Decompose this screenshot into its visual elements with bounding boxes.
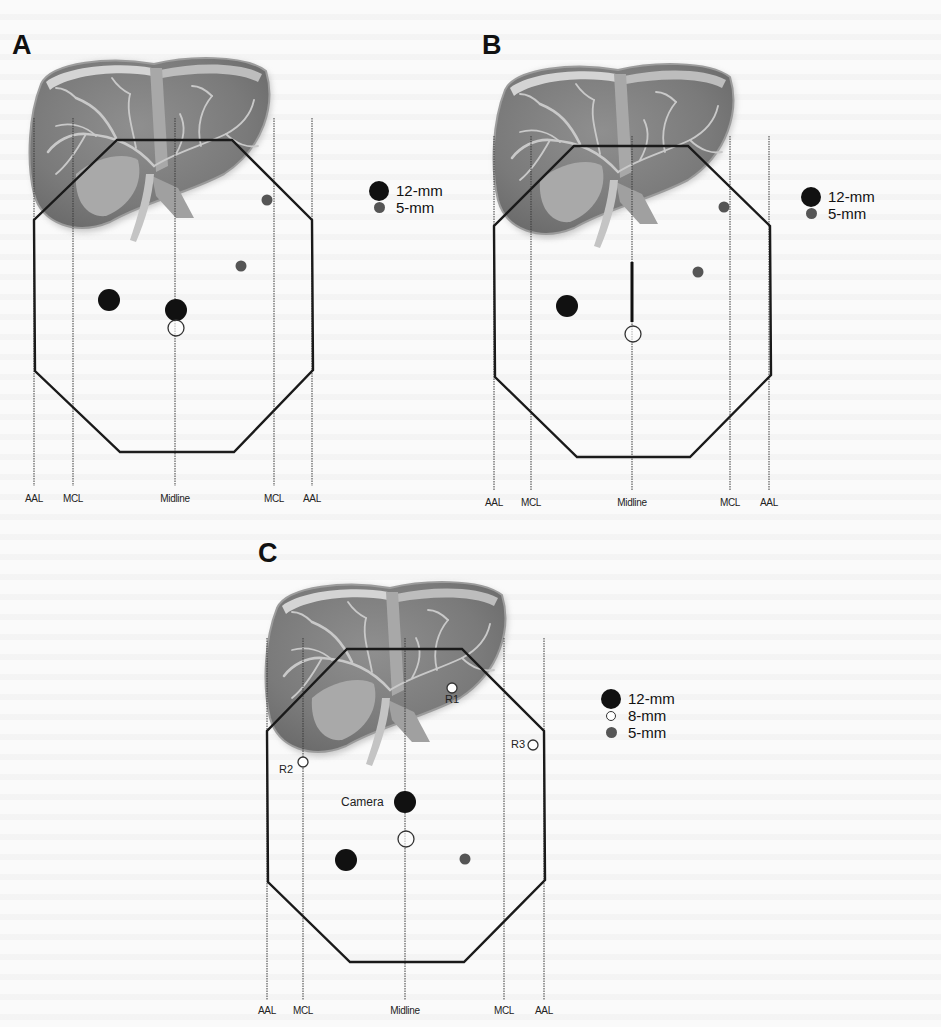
- filled-small-circle-icon: [806, 208, 817, 219]
- legend-item: 12-mm: [368, 182, 443, 199]
- panel-letter-c: C: [258, 538, 278, 569]
- filled-small-circle-icon: [374, 202, 385, 213]
- liver-illustration: [266, 582, 508, 766]
- filled-large-circle-icon: [801, 187, 821, 207]
- legend-label: 5-mm: [828, 205, 866, 222]
- axis-label-mcl: MCL: [264, 493, 284, 504]
- filled-large-circle-icon: [369, 181, 389, 201]
- legend-panel-b: 12-mm5-mm: [800, 188, 875, 222]
- port-5mm-marker: [460, 854, 471, 865]
- axis-label-mcl: MCL: [720, 497, 740, 508]
- legend-panel-c: 12-mm8-mm5-mm: [600, 690, 675, 741]
- legend-item: 5-mm: [600, 724, 675, 741]
- legend-label: 5-mm: [396, 199, 434, 216]
- marker-label-r1: R1: [445, 693, 459, 705]
- liver-illustration: [30, 58, 272, 242]
- port-8mm-marker: [298, 757, 308, 767]
- legend-swatch-icon: [368, 202, 390, 213]
- legend-item: 5-mm: [368, 199, 443, 216]
- legend-label: 12-mm: [396, 182, 443, 199]
- legend-item: 12-mm: [800, 188, 875, 205]
- port-12mm-marker: [335, 849, 357, 871]
- axis-label-mcl: MCL: [494, 1005, 514, 1016]
- port-8mm-marker: [528, 740, 538, 750]
- axis-label-aal: AAL: [535, 1005, 553, 1016]
- legend-swatch-icon: [800, 208, 822, 219]
- port-5mm-marker: [693, 267, 704, 278]
- legend-swatch-icon: [368, 181, 390, 201]
- axis-label-midline: Midline: [160, 493, 190, 504]
- legend-item: 8-mm: [600, 707, 675, 724]
- legend-label: 12-mm: [628, 690, 675, 707]
- panel-letter-b: B: [482, 30, 502, 61]
- panel-b: [494, 64, 771, 490]
- open-circle-icon: [606, 711, 616, 721]
- axis-label-aal: AAL: [25, 493, 43, 504]
- axis-label-aal: AAL: [760, 497, 778, 508]
- port-8mm-marker: [447, 683, 457, 693]
- umbilicus-marker: [625, 326, 641, 342]
- legend-swatch-icon: [600, 711, 622, 721]
- legend-item: 12-mm: [600, 690, 675, 707]
- port-12mm-marker: [556, 295, 578, 317]
- legend-item: 5-mm: [800, 205, 875, 222]
- port-12mm-marker: [394, 791, 416, 813]
- port-5mm-marker: [236, 261, 247, 272]
- axis-label-midline: Midline: [617, 497, 647, 508]
- port-5mm-marker: [719, 202, 730, 213]
- panel-a: [30, 58, 313, 486]
- port-placement-figure: AAALMCLMidlineMCLAAL12-mm5-mmBAALMCLMidl…: [0, 0, 941, 1027]
- panel-c: [266, 582, 545, 1000]
- axis-label-midline: Midline: [390, 1005, 420, 1016]
- umbilicus-marker: [168, 320, 184, 336]
- axis-label-mcl: MCL: [293, 1005, 313, 1016]
- legend-label: 12-mm: [828, 188, 875, 205]
- port-12mm-marker: [165, 299, 187, 321]
- port-5mm-marker: [262, 195, 273, 206]
- legend-label: 8-mm: [628, 707, 666, 724]
- axis-label-aal: AAL: [258, 1005, 276, 1016]
- axis-label-aal: AAL: [303, 493, 321, 504]
- legend-panel-a: 12-mm5-mm: [368, 182, 443, 216]
- filled-large-circle-icon: [601, 689, 621, 709]
- filled-small-circle-icon: [606, 727, 617, 738]
- marker-label-camera: Camera: [341, 795, 384, 809]
- axis-label-mcl: MCL: [63, 493, 83, 504]
- umbilicus-marker: [398, 831, 414, 847]
- panel-letter-a: A: [12, 30, 32, 61]
- legend-label: 5-mm: [628, 724, 666, 741]
- legend-swatch-icon: [600, 727, 622, 738]
- marker-label-r3: R3: [511, 738, 525, 750]
- legend-swatch-icon: [800, 187, 822, 207]
- marker-label-r2: R2: [279, 763, 293, 775]
- axis-label-mcl: MCL: [521, 497, 541, 508]
- figure-canvas: [0, 0, 941, 1027]
- axis-label-aal: AAL: [485, 497, 503, 508]
- port-12mm-marker: [98, 289, 120, 311]
- legend-swatch-icon: [600, 689, 622, 709]
